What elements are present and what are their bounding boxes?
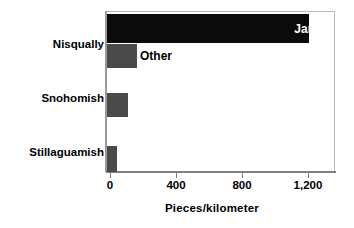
bar-snohomish-other bbox=[107, 93, 128, 117]
x-tick-1200 bbox=[308, 173, 309, 178]
x-tick-400 bbox=[176, 173, 177, 178]
category-label-nisqually: Nisqually bbox=[0, 38, 104, 50]
x-axis-title: Pieces/kilometer bbox=[0, 202, 354, 214]
x-tick-label-0: 0 bbox=[107, 179, 113, 191]
series-label-jams: Jams bbox=[294, 22, 325, 36]
bar-chart: Jams Other Nisqually Snohomish Stillagua… bbox=[0, 0, 354, 228]
x-tick-label-800: 800 bbox=[232, 179, 251, 191]
category-label-snohomish: Snohomish bbox=[0, 92, 104, 104]
x-tick-label-400: 400 bbox=[166, 179, 185, 191]
x-axis-title-text: Pieces/kilometer bbox=[95, 202, 259, 214]
x-tick-0 bbox=[110, 173, 111, 178]
x-axis-line bbox=[106, 171, 336, 173]
x-tick-label-1200: 1,200 bbox=[294, 179, 323, 191]
bar-nisqually-jams bbox=[107, 14, 309, 43]
category-label-stillaguamish: Stillaguamish bbox=[0, 146, 104, 158]
bar-stillaguamish-other bbox=[107, 146, 117, 172]
bar-nisqually-other bbox=[107, 44, 137, 68]
series-label-other: Other bbox=[140, 49, 172, 63]
x-tick-800 bbox=[242, 173, 243, 178]
